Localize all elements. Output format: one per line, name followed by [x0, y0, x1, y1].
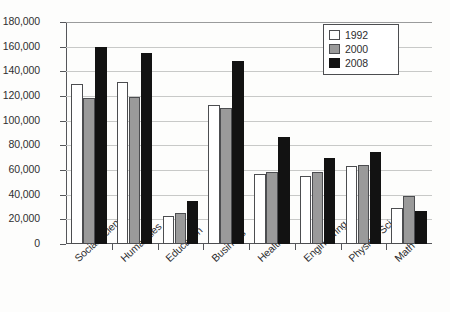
- x-axis-tick: [112, 244, 113, 250]
- legend-swatch-2008: [329, 58, 340, 68]
- y-axis-tick-label: 80,000: [0, 138, 40, 150]
- y-axis-tick-label: 160,000: [0, 40, 40, 52]
- x-axis-tick: [158, 244, 159, 250]
- legend-item: 2000: [329, 42, 393, 56]
- bar: [129, 97, 141, 244]
- legend-label-1992: 1992: [345, 29, 368, 41]
- y-axis-tick: [60, 244, 66, 245]
- bar-group: [254, 22, 290, 244]
- bar: [266, 172, 278, 244]
- y-axis-tick: [60, 121, 66, 122]
- chart-figure: 020,00040,00060,00080,000100,000120,0001…: [0, 0, 450, 312]
- bar: [71, 84, 83, 244]
- y-axis-tick: [60, 22, 66, 23]
- y-axis-tick-label: 60,000: [0, 163, 40, 175]
- bar: [358, 165, 370, 244]
- y-axis-tick-label: 120,000: [0, 89, 40, 101]
- y-axis-tick-label: 180,000: [0, 15, 40, 27]
- bar: [117, 82, 129, 244]
- y-axis-tick-label: 100,000: [0, 114, 40, 126]
- bar: [220, 108, 232, 244]
- legend-swatch-1992: [329, 30, 340, 40]
- bar-group: [117, 22, 153, 244]
- bar: [232, 61, 244, 244]
- bar: [370, 152, 382, 245]
- legend: 1992 2000 2008: [323, 24, 399, 75]
- bar-group: [163, 22, 199, 244]
- legend-item: 2008: [329, 56, 393, 70]
- bar: [346, 166, 358, 244]
- x-axis-tick: [295, 244, 296, 250]
- bar: [163, 216, 175, 244]
- y-axis-tick: [60, 96, 66, 97]
- legend-swatch-2000: [329, 44, 340, 54]
- bar: [175, 213, 187, 244]
- legend-item: 1992: [329, 28, 393, 42]
- x-axis-tick: [203, 244, 204, 250]
- bar: [141, 53, 153, 244]
- y-axis-tick-label: 20,000: [0, 212, 40, 224]
- bar: [403, 196, 415, 244]
- y-axis-tick: [60, 219, 66, 220]
- y-axis-tick: [60, 47, 66, 48]
- y-axis-tick: [60, 145, 66, 146]
- bar: [187, 201, 199, 244]
- y-axis-tick: [60, 170, 66, 171]
- bar: [208, 105, 220, 244]
- y-axis-tick: [60, 71, 66, 72]
- bar-group: [71, 22, 107, 244]
- bar: [324, 158, 336, 244]
- bar: [254, 174, 266, 244]
- bar: [391, 208, 403, 244]
- bar: [278, 137, 290, 244]
- bar: [415, 211, 427, 244]
- bar: [312, 172, 324, 244]
- y-axis-tick-label: 0: [0, 237, 40, 249]
- bar-group: [208, 22, 244, 244]
- y-axis-tick-label: 140,000: [0, 64, 40, 76]
- bar: [95, 47, 107, 244]
- y-axis-tick-label: 40,000: [0, 188, 40, 200]
- bar: [83, 98, 95, 244]
- x-axis-tick: [249, 244, 250, 250]
- bar: [300, 176, 312, 244]
- y-axis-tick: [60, 195, 66, 196]
- legend-label-2008: 2008: [345, 57, 368, 69]
- x-axis-tick: [341, 244, 342, 250]
- x-axis-tick: [386, 244, 387, 250]
- legend-label-2000: 2000: [345, 43, 368, 55]
